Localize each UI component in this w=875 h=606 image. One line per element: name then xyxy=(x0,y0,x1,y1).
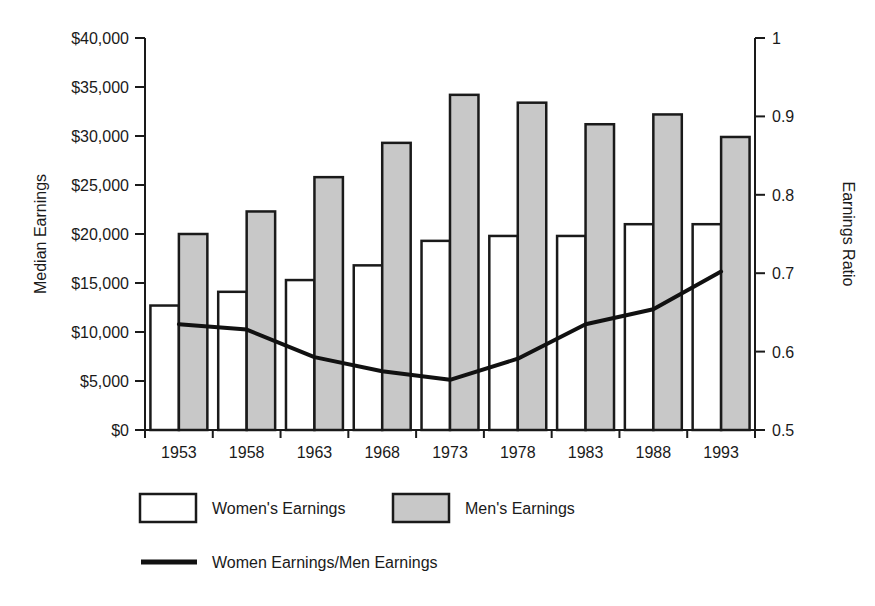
left-axis-tick-labels: $0$5,000$10,000$15,000$20,000$25,000$30,… xyxy=(71,30,129,439)
bar-men-earnings xyxy=(382,143,410,430)
bar-men-earnings xyxy=(653,114,681,430)
legend-swatch-women-earnings xyxy=(140,494,196,522)
bar-men-earnings xyxy=(586,124,614,430)
right-tick-label: 1 xyxy=(772,30,781,47)
left-tick-label: $30,000 xyxy=(71,128,129,145)
bar-men-earnings xyxy=(721,137,749,430)
bar-women-earnings xyxy=(218,292,246,430)
left-tick-label: $5,000 xyxy=(80,373,129,390)
bar-women-earnings xyxy=(693,224,721,430)
left-tick-label: $10,000 xyxy=(71,324,129,341)
x-tick-label: 1973 xyxy=(432,444,468,461)
left-tick-label: $15,000 xyxy=(71,275,129,292)
right-tick-label: 0.5 xyxy=(772,422,794,439)
right-tick-label: 0.8 xyxy=(772,187,794,204)
bar-men-earnings xyxy=(518,103,546,430)
right-tick-label: 0.6 xyxy=(772,344,794,361)
legend-swatch-men-earnings xyxy=(393,494,449,522)
legend-label-men-earnings: Men's Earnings xyxy=(465,500,575,517)
bar-women-earnings xyxy=(422,241,450,430)
left-axis-title: Median Earnings xyxy=(32,174,49,294)
left-tick-label: $0 xyxy=(111,422,129,439)
x-tick-label: 1978 xyxy=(500,444,536,461)
left-tick-label: $40,000 xyxy=(71,30,129,47)
right-axis-title: Earnings Ratio xyxy=(840,182,857,287)
bar-women-earnings xyxy=(150,306,178,430)
legend-label-earnings-ratio: Women Earnings/Men Earnings xyxy=(212,554,438,571)
bar-men-earnings xyxy=(314,177,342,430)
legend-label-women-earnings: Women's Earnings xyxy=(212,500,345,517)
right-tick-label: 0.7 xyxy=(772,265,794,282)
bar-men-earnings xyxy=(179,234,207,430)
bar-women-earnings xyxy=(625,224,653,430)
left-tick-label: $20,000 xyxy=(71,226,129,243)
x-tick-label: 1993 xyxy=(703,444,739,461)
x-tick-label: 1988 xyxy=(636,444,672,461)
bar-women-earnings xyxy=(489,236,517,430)
x-tick-label: 1963 xyxy=(297,444,333,461)
x-tick-label: 1968 xyxy=(364,444,400,461)
left-tick-label: $35,000 xyxy=(71,79,129,96)
left-tick-label: $25,000 xyxy=(71,177,129,194)
x-tick-label: 1983 xyxy=(568,444,604,461)
x-tick-label: 1958 xyxy=(229,444,265,461)
bar-men-earnings xyxy=(247,211,275,430)
right-tick-label: 0.9 xyxy=(772,108,794,125)
bar-women-earnings xyxy=(354,265,382,430)
dual-axis-bar-line-chart: $0$5,000$10,000$15,000$20,000$25,000$30,… xyxy=(0,0,875,606)
x-axis-tick-labels: 195319581963196819731978198319881993 xyxy=(161,444,739,461)
x-tick-label: 1953 xyxy=(161,444,197,461)
chart-figure: $0$5,000$10,000$15,000$20,000$25,000$30,… xyxy=(0,0,875,606)
